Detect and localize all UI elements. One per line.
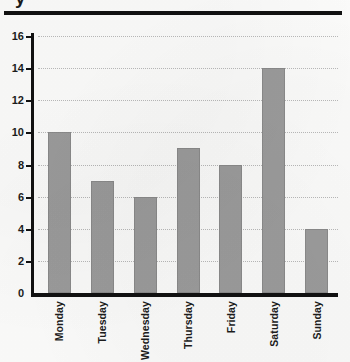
x-axis-tick-label: Tuesday [91, 299, 114, 359]
chart-page: y 0246810121416 MondayTuesdayWednesdayTh… [0, 0, 350, 362]
y-axis-tick-label: 8 [0, 160, 24, 171]
x-axis-tick-label: Thursday [177, 299, 200, 359]
x-axis-tick-label: Monday [48, 299, 71, 359]
bar [91, 181, 114, 293]
x-axis-tick-label-text: Monday [53, 301, 65, 341]
y-axis-tick-label: 12 [0, 95, 24, 106]
x-axis-tick-label: Saturday [262, 299, 285, 359]
x-axis-tick-label: Friday [219, 299, 242, 359]
x-axis-tick-label-text: Sunday [311, 301, 323, 340]
y-axis-tick-label: 16 [0, 31, 24, 42]
x-axis-tick-label-text: Thursday [182, 301, 194, 349]
y-axis-tick [26, 261, 34, 263]
y-axis-tick [26, 229, 34, 231]
bar [262, 68, 285, 293]
y-axis-tick-label: 2 [0, 256, 24, 267]
bar [134, 197, 157, 293]
x-axis-tick-label-text: Wednesday [139, 301, 151, 360]
y-axis-tick-label: 6 [0, 192, 24, 203]
y-axis-tick-label: 0 [0, 288, 24, 299]
x-axis-tick-label-text: Saturday [268, 301, 280, 347]
y-axis-tick [26, 36, 34, 38]
x-axis-tick-label: Sunday [305, 299, 328, 359]
y-axis-labels: 0246810121416 [0, 0, 24, 362]
bar [219, 165, 242, 294]
y-axis-tick-label: 4 [0, 224, 24, 235]
y-axis-tick-label: 10 [0, 127, 24, 138]
bar-chart: 0246810121416 MondayTuesdayWednesdayThur… [0, 0, 350, 362]
bar [48, 132, 71, 293]
y-axis-tick-label: 14 [0, 63, 24, 74]
y-axis-tick [26, 68, 34, 70]
x-axis-labels: MondayTuesdayWednesdayThursdayFridaySatu… [38, 299, 338, 361]
y-axis-tick [26, 197, 34, 199]
bar [177, 148, 200, 293]
y-axis-tick [26, 100, 34, 102]
x-axis-baseline [31, 293, 338, 297]
x-axis-tick-label-text: Tuesday [96, 301, 108, 344]
bar [305, 229, 328, 293]
y-axis-tick [26, 132, 34, 134]
x-axis-tick-label-text: Friday [225, 301, 237, 333]
y-axis-tick [26, 165, 34, 167]
x-axis-tick-label: Wednesday [134, 299, 157, 359]
bar-series [38, 36, 338, 293]
